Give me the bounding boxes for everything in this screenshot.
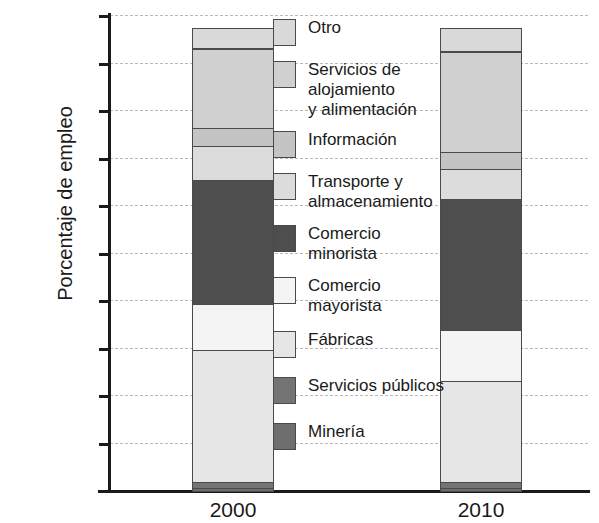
legend-item-label: Otro	[308, 18, 341, 38]
y-axis-tick	[99, 63, 111, 66]
bar-segment	[192, 488, 274, 492]
legend-item[interactable]: Comercio mayorista	[273, 276, 458, 316]
bar-segment	[192, 128, 274, 147]
legend-item-label: Comercio mayorista	[308, 276, 382, 316]
bar-segment	[192, 350, 274, 484]
legend-swatch-icon	[273, 61, 296, 88]
legend-item-label: Transporte y almacenamiento	[308, 172, 433, 212]
bar-segment	[192, 146, 274, 182]
bar-segment	[192, 28, 274, 49]
legend-swatch-icon	[273, 377, 296, 404]
stacked-bar	[192, 28, 274, 490]
chart-legend: OtroServicios de alojamiento y alimentac…	[273, 18, 458, 458]
x-axis-tick-label: 2000	[163, 498, 303, 522]
bar-segment	[440, 488, 522, 492]
legend-swatch-icon	[273, 331, 296, 358]
y-axis-tick	[99, 158, 111, 161]
legend-item[interactable]: Otro	[273, 18, 458, 46]
legend-item-label: Servicios públicos	[308, 376, 444, 396]
legend-item-label: Servicios de alojamiento y alimentación	[308, 60, 417, 120]
legend-swatch-icon	[273, 173, 296, 200]
y-axis-tick	[99, 348, 111, 351]
legend-item-label: Minería	[308, 422, 365, 442]
legend-swatch-icon	[273, 131, 296, 158]
legend-swatch-icon	[273, 225, 296, 252]
y-axis-tick	[99, 395, 111, 398]
bar-segment	[192, 180, 274, 306]
legend-swatch-icon	[273, 423, 296, 450]
y-axis-tick	[99, 253, 111, 256]
bar-segment	[192, 49, 274, 130]
y-axis-tick	[99, 443, 111, 446]
legend-item-label: Información	[308, 130, 397, 150]
y-axis-title: Porcentaje de empleo	[54, 44, 77, 364]
legend-item[interactable]: Servicios públicos	[273, 376, 458, 404]
bar-segment	[192, 304, 274, 352]
y-axis-tick	[99, 300, 111, 303]
legend-swatch-icon	[273, 277, 296, 304]
legend-item[interactable]: Transporte y almacenamiento	[273, 172, 458, 212]
legend-item-label: Comercio minorista	[308, 224, 381, 264]
y-axis-tick	[99, 15, 111, 18]
legend-item-label: Fábricas	[308, 330, 373, 350]
legend-item[interactable]: Comercio minorista	[273, 224, 458, 264]
legend-item[interactable]: Fábricas	[273, 330, 458, 358]
legend-item[interactable]: Información	[273, 130, 458, 158]
legend-item[interactable]: Minería	[273, 422, 458, 450]
y-axis-tick	[99, 490, 111, 493]
x-axis-tick-label: 2010	[411, 498, 551, 522]
legend-item[interactable]: Servicios de alojamiento y alimentación	[273, 60, 458, 120]
chart-page: Porcentaje de empleo 100%90%80%70%60%50%…	[0, 0, 599, 523]
gridline	[110, 15, 588, 16]
legend-swatch-icon	[273, 19, 296, 46]
y-axis-tick	[99, 205, 111, 208]
y-axis-tick	[99, 110, 111, 113]
